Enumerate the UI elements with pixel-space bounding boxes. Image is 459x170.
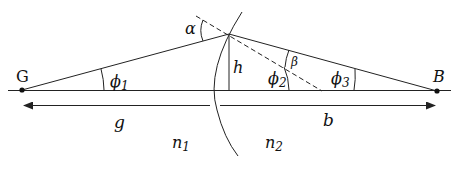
- image-point: [434, 88, 439, 93]
- object-label: G: [16, 67, 29, 86]
- angle-label-alpha: α: [185, 19, 196, 38]
- angle-arc-phi3: [354, 69, 355, 90]
- image-label: B: [432, 67, 445, 86]
- medium-label-n2: n2: [265, 133, 283, 154]
- refracting-surface-arc: [214, 12, 242, 156]
- angle-label-phi1: ϕ1: [110, 72, 129, 93]
- angle-arc-phi1: [101, 69, 104, 90]
- angle-label-beta: β: [290, 55, 298, 69]
- refraction-diagram: G B ϕ1 α h ϕ2 β ϕ3 g b n1 n2: [0, 0, 459, 170]
- angle-arc-beta: [285, 50, 289, 67]
- angle-arc-alpha: [201, 20, 203, 41]
- image-distance-label: b: [323, 110, 334, 130]
- angle-label-phi2: ϕ2: [268, 69, 287, 90]
- object-point: [19, 87, 24, 92]
- medium-label-n1: n1: [172, 133, 190, 154]
- angle-label-h: h: [233, 58, 243, 77]
- object-distance-label: g: [114, 112, 125, 132]
- angle-label-phi3: ϕ3: [331, 69, 350, 90]
